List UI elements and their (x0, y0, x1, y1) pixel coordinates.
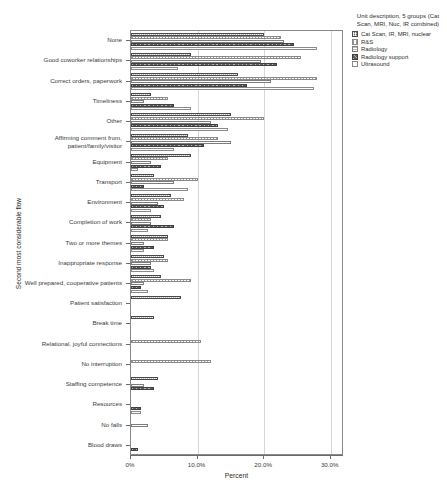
x-axis-title: Percent (130, 472, 343, 479)
bar (131, 249, 144, 252)
y-tick-label: Correct orders, paperwork (2, 77, 122, 84)
bar (131, 238, 168, 241)
y-tick-mark (126, 425, 130, 426)
bar (131, 222, 151, 225)
y-axis-title: Second most considerable flow (15, 174, 22, 314)
bar (131, 178, 198, 181)
y-tick-mark (126, 162, 130, 163)
bar (131, 275, 161, 278)
legend-item: Radiology (352, 46, 444, 52)
bar (131, 47, 317, 50)
y-tick-label: Good coworker relationships (2, 57, 122, 64)
bar (131, 43, 294, 46)
y-tick-label: No falls (2, 421, 122, 428)
y-tick-mark (126, 445, 130, 446)
bar (131, 157, 168, 160)
bar (131, 80, 271, 83)
bar (131, 411, 141, 414)
x-tick-label: 10.0% (188, 461, 206, 468)
legend-item: Ultrasound (352, 61, 444, 67)
y-tick-mark (126, 364, 130, 365)
bar (131, 229, 148, 232)
bar (131, 141, 231, 144)
x-tick-mark (263, 455, 264, 459)
y-tick-mark (126, 81, 130, 82)
bar (131, 377, 158, 380)
y-tick-mark (126, 222, 130, 223)
bar (131, 218, 151, 221)
bar (131, 63, 277, 66)
legend-label: Ultrasound (361, 61, 390, 67)
legend-swatch (352, 54, 358, 60)
y-tick-mark (126, 344, 130, 345)
y-tick-mark (126, 263, 130, 264)
bar (131, 387, 154, 390)
legend-entries: Cat Scan, IR, MRI, nuclearR&SRadiologyRa… (352, 31, 444, 67)
bar (131, 161, 151, 164)
bar (131, 407, 141, 410)
y-tick-label: Resources (2, 401, 122, 408)
bar (131, 174, 154, 177)
y-tick-label: Relational, joyful connections (2, 340, 122, 347)
bar (131, 77, 317, 80)
y-tick-mark (126, 384, 130, 385)
bar (131, 87, 314, 90)
bar (131, 60, 261, 63)
bar (131, 117, 264, 120)
y-tick-mark (126, 404, 130, 405)
bar (131, 128, 228, 131)
bar (131, 215, 161, 218)
legend-swatch (352, 39, 358, 45)
plot-area (130, 30, 343, 455)
bar (131, 168, 138, 171)
bar (131, 255, 164, 258)
x-tick-mark (197, 455, 198, 459)
bar (131, 121, 211, 124)
bar (131, 181, 174, 184)
y-tick-mark (126, 121, 130, 122)
legend-label: Radiology support (361, 54, 408, 60)
bar (131, 225, 174, 228)
bar (131, 154, 191, 157)
bar (131, 93, 151, 96)
y-tick-mark (126, 40, 130, 41)
y-tick-mark (126, 323, 130, 324)
bar (131, 148, 174, 151)
legend-label: R&S (361, 39, 373, 45)
bar (131, 269, 154, 272)
bar (131, 134, 188, 137)
bar (131, 384, 144, 387)
y-tick-mark (126, 182, 130, 183)
bar (131, 84, 247, 87)
bar (131, 259, 168, 262)
x-tick-label: 20.0% (254, 461, 272, 468)
bar (131, 424, 148, 427)
bar (131, 144, 204, 147)
y-tick-label: Timeliness (2, 97, 122, 104)
y-tick-mark (126, 101, 130, 102)
legend-swatch (352, 31, 358, 37)
bar (131, 205, 164, 208)
bar (131, 235, 168, 238)
gridline (331, 31, 332, 454)
bar (131, 448, 138, 451)
bar (131, 137, 218, 140)
legend-title: Unit description, 5 groups (Cat Scan, MR… (352, 12, 444, 27)
legend-swatch (352, 46, 358, 52)
x-tick-mark (130, 455, 131, 459)
bar (131, 67, 178, 70)
bar (131, 340, 201, 343)
x-tick-mark (330, 455, 331, 459)
bar (131, 36, 281, 39)
bar (131, 242, 144, 245)
y-tick-mark (126, 303, 130, 304)
bar (131, 198, 184, 201)
y-tick-label: None (2, 37, 122, 44)
bar (131, 360, 211, 363)
bar (131, 107, 191, 110)
bar (131, 290, 148, 293)
bar (131, 56, 301, 59)
legend: Unit description, 5 groups (Cat Scan, MR… (352, 12, 444, 69)
y-tick-mark (126, 243, 130, 244)
y-tick-label: Blood draws (2, 441, 122, 448)
